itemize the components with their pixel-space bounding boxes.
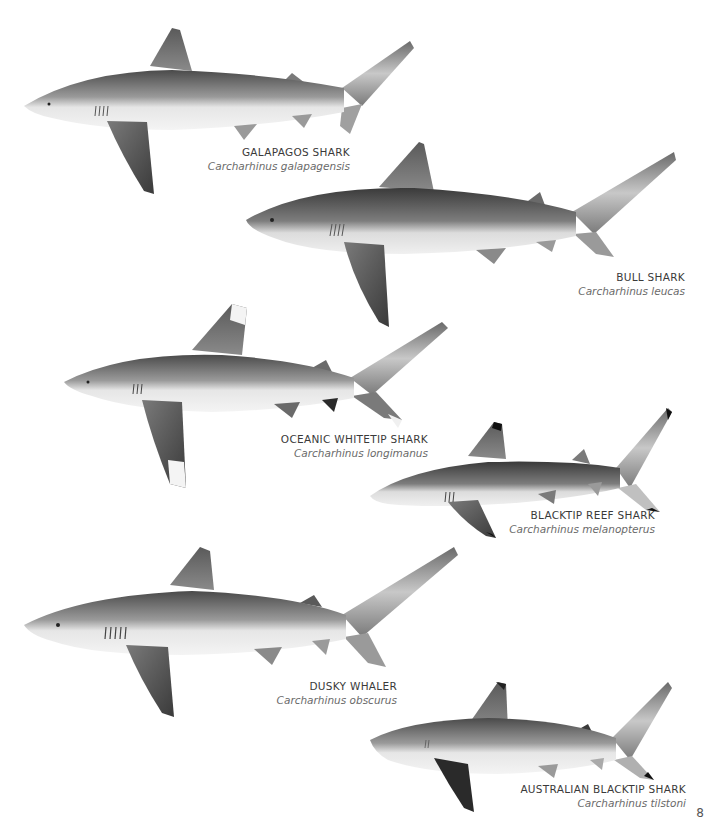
common-name: BULL SHARK: [578, 271, 685, 285]
page-number: 8: [696, 806, 704, 820]
scientific-name: Carcharhinus tilstoni: [520, 797, 686, 811]
scientific-name: Carcharhinus leucas: [578, 285, 685, 299]
scientific-name: Carcharhinus melanopterus: [509, 523, 655, 537]
bull-caption: BULL SHARK Carcharhinus leucas: [578, 271, 685, 298]
common-name: AUSTRALIAN BLACKTIP SHARK: [520, 783, 686, 797]
blacktip-reef-caption: BLACKTIP REEF SHARK Carcharhinus melanop…: [509, 509, 655, 536]
common-name: BLACKTIP REEF SHARK: [509, 509, 655, 523]
australian-blacktip-caption: AUSTRALIAN BLACKTIP SHARK Carcharhinus t…: [520, 783, 686, 810]
